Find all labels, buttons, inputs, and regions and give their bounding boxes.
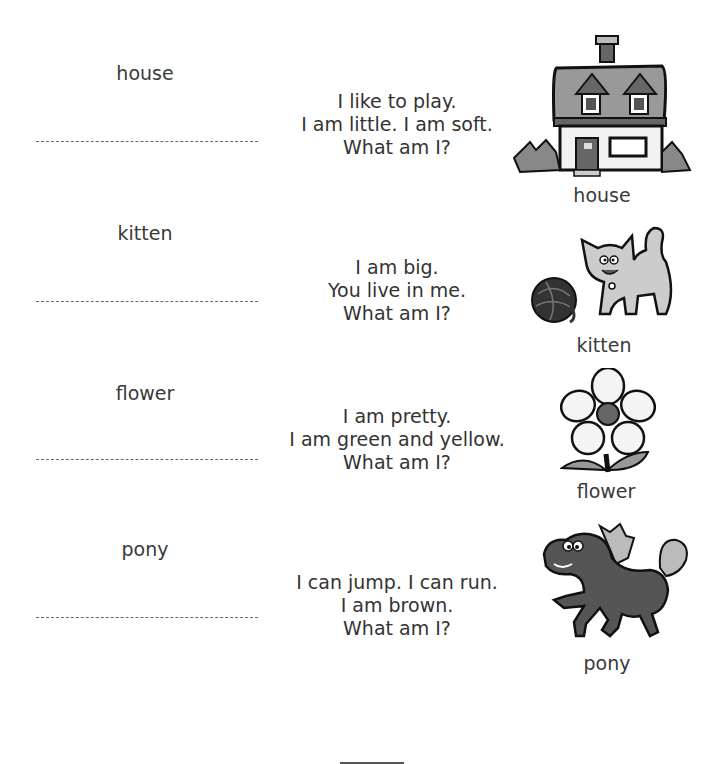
riddle-1-line-2: I am little. I am soft. (272, 113, 522, 136)
word-pony: pony (20, 538, 270, 560)
answer-line-3[interactable] (36, 459, 258, 460)
caption-flower: flower (566, 480, 646, 502)
riddle-4-line-3: What am I? (272, 617, 522, 640)
kitten-icon (526, 222, 696, 332)
word-house: house (20, 62, 270, 84)
word-kitten: kitten (20, 222, 270, 244)
riddle-4: I can jump. I can run. I am brown. What … (272, 571, 522, 640)
caption-pony: pony (574, 652, 640, 674)
riddle-1-line-3: What am I? (272, 136, 522, 159)
riddle-1-line-1: I like to play. (272, 90, 522, 113)
riddle-2-line-3: What am I? (272, 302, 522, 325)
riddle-4-line-1: I can jump. I can run. (272, 571, 522, 594)
riddle-3-line-3: What am I? (272, 451, 522, 474)
flower-icon (560, 368, 656, 480)
riddle-3-line-1: I am pretty. (272, 405, 522, 428)
answer-line-1[interactable] (36, 141, 258, 142)
riddle-2-line-2: You live in me. (272, 279, 522, 302)
riddle-3: I am pretty. I am green and yellow. What… (272, 405, 522, 474)
riddle-2: I am big. You live in me. What am I? (272, 256, 522, 325)
caption-kitten: kitten (566, 334, 642, 356)
riddle-3-line-2: I am green and yellow. (272, 428, 522, 451)
caption-house: house (560, 184, 644, 206)
riddle-4-line-2: I am brown. (272, 594, 522, 617)
pony-icon (540, 518, 694, 646)
word-flower: flower (20, 382, 270, 404)
answer-line-2[interactable] (36, 301, 258, 302)
riddle-1: I like to play. I am little. I am soft. … (272, 90, 522, 159)
house-icon (512, 30, 692, 180)
riddle-2-line-1: I am big. (272, 256, 522, 279)
answer-line-4[interactable] (36, 617, 258, 618)
